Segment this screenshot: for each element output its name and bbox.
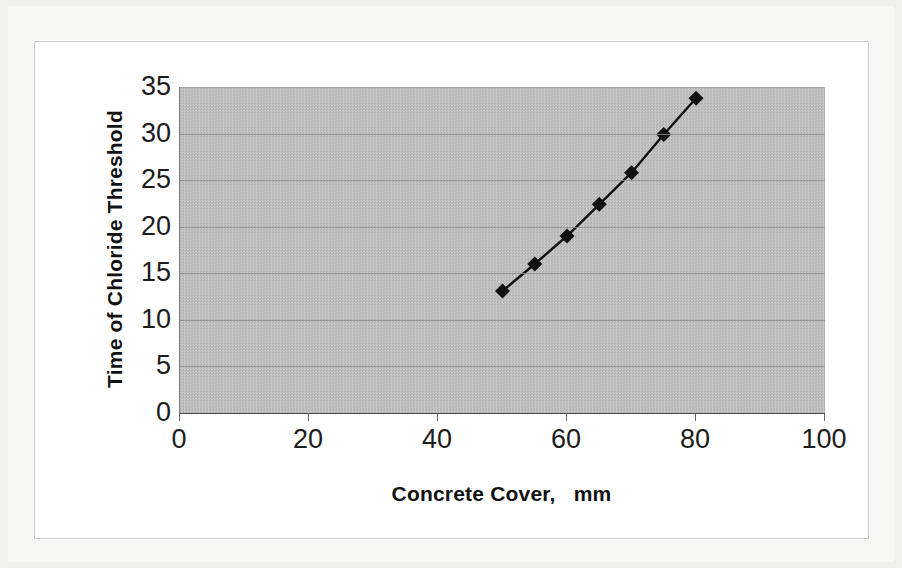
y-axis-tick-label: 35 — [125, 73, 171, 100]
y-axis-tick-label: 0 — [125, 399, 171, 426]
gridline — [180, 134, 825, 135]
x-axis-tick-marks — [179, 414, 824, 422]
x-axis-tick-mark — [179, 414, 180, 421]
y-axis-title: Time of Chloride Threshold — [103, 49, 127, 449]
y-axis-tick-label: 15 — [125, 259, 171, 286]
chart-figure: 05101520253035 020406080100 Concrete Cov… — [34, 41, 869, 539]
data-series-line — [180, 87, 825, 413]
y-axis-tick-label: 25 — [125, 166, 171, 193]
x-axis-title: Concrete Cover, mm — [179, 482, 824, 506]
x-axis-tick-labels: 020406080100 — [179, 426, 824, 466]
x-axis-tick-mark — [437, 414, 438, 421]
x-axis-tick-label: 0 — [139, 426, 219, 453]
y-axis-tick-label: 10 — [125, 306, 171, 333]
x-axis-tick-label: 100 — [784, 426, 864, 453]
x-axis-tick-label: 20 — [268, 426, 348, 453]
x-axis-tick-mark — [824, 414, 825, 421]
gridline — [180, 227, 825, 228]
gridline — [180, 320, 825, 321]
scanned-page-background: 05101520253035 020406080100 Concrete Cov… — [0, 0, 902, 568]
gridline — [180, 180, 825, 181]
x-axis-tick-mark — [566, 414, 567, 421]
y-axis-tick-label: 30 — [125, 120, 171, 147]
plot-area — [179, 87, 825, 414]
x-axis-tick-mark — [695, 414, 696, 421]
x-axis-tick-mark — [308, 414, 309, 421]
x-axis-tick-label: 60 — [526, 426, 606, 453]
y-axis-tick-label: 20 — [125, 213, 171, 240]
x-axis-tick-label: 40 — [397, 426, 477, 453]
x-axis-tick-label: 80 — [655, 426, 735, 453]
y-axis-tick-label: 5 — [125, 352, 171, 379]
gridline — [180, 273, 825, 274]
gridline — [180, 366, 825, 367]
